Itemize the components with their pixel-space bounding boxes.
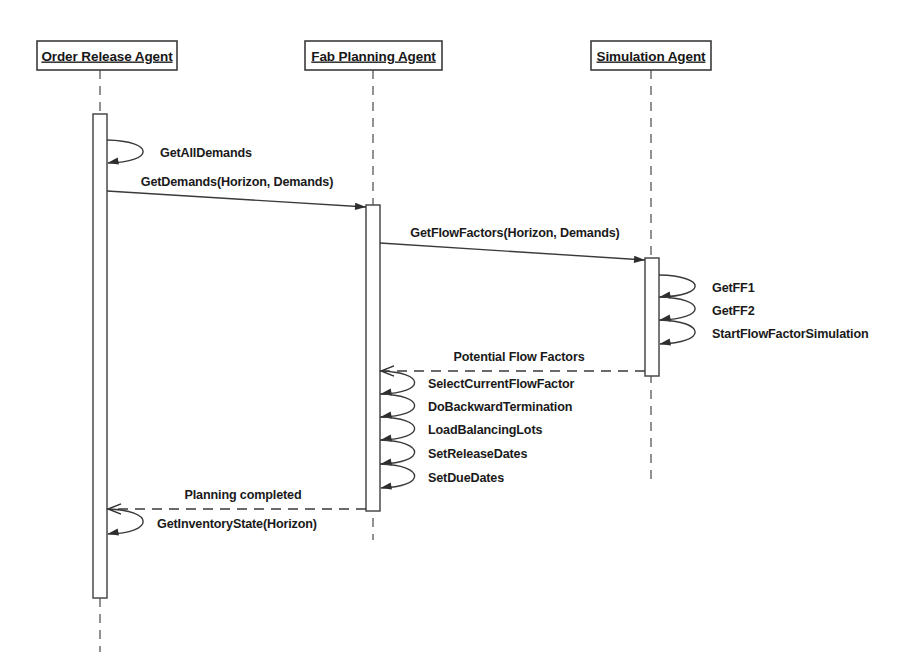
message-msg-get-flow-factors[interactable]: GetFlowFactors(Horizon, Demands) — [380, 226, 645, 263]
activation-bar-order-release-agent[interactable] — [93, 114, 107, 598]
message-label: GetDemands(Horizon, Demands) — [141, 175, 333, 189]
lifeline-fab-planning-agent[interactable]: Fab Planning Agent — [305, 41, 442, 540]
self-message-arc — [659, 275, 695, 297]
message-msg-get-ff1[interactable]: GetFF1 — [659, 275, 755, 299]
message-label: Potential Flow Factors — [453, 350, 584, 364]
self-message-arc — [380, 417, 415, 440]
message-label: GetFlowFactors(Horizon, Demands) — [410, 226, 619, 240]
self-message-arc — [659, 297, 695, 320]
message-label: GetFF1 — [712, 281, 755, 295]
message-msg-get-ff2[interactable]: GetFF2 — [659, 297, 755, 322]
sequence-diagram-svg: Order Release AgentFab Planning AgentSim… — [0, 0, 910, 666]
message-label: GetFF2 — [712, 304, 755, 318]
self-message-arc — [380, 440, 415, 464]
self-message-arc — [380, 371, 415, 394]
message-label: SelectCurrentFlowFactor — [428, 377, 575, 391]
message-msg-load-balancing-lots[interactable]: LoadBalancingLots — [380, 417, 542, 442]
activation-bar-fab-planning-agent[interactable] — [366, 205, 380, 511]
message-msg-set-release-dates[interactable]: SetReleaseDates — [380, 440, 527, 466]
self-message-arc — [380, 394, 415, 417]
lifeline-label-order-release-agent: Order Release Agent — [41, 49, 173, 64]
message-label: GetAllDemands — [160, 146, 252, 160]
message-msg-get-demands[interactable]: GetDemands(Horizon, Demands) — [107, 175, 366, 210]
self-message-arc — [380, 464, 415, 488]
self-message-arc — [107, 509, 143, 534]
sequence-diagram-canvas: Order Release AgentFab Planning AgentSim… — [0, 0, 910, 666]
message-label: Planning completed — [185, 488, 302, 502]
lifeline-label-fab-planning-agent: Fab Planning Agent — [311, 49, 436, 64]
message-label: SetReleaseDates — [428, 447, 527, 461]
lifeline-order-release-agent[interactable]: Order Release Agent — [37, 41, 177, 652]
message-label: LoadBalancingLots — [428, 423, 542, 437]
message-msg-potential-flow-factors[interactable]: Potential Flow Factors — [381, 350, 645, 376]
message-msg-get-all-demands[interactable]: GetAllDemands — [107, 140, 252, 165]
message-label: StartFlowFactorSimulation — [712, 327, 868, 341]
message-line — [107, 191, 366, 207]
activation-bar-simulation-agent[interactable] — [645, 258, 659, 376]
message-label: GetInventoryState(Horizon) — [157, 517, 317, 531]
self-message-arc — [659, 320, 695, 344]
message-line — [380, 243, 645, 260]
message-msg-start-flow-factor-simulation[interactable]: StartFlowFactorSimulation — [659, 320, 868, 346]
message-label: SetDueDates — [428, 471, 504, 485]
lifelines-layer: Order Release AgentFab Planning AgentSim… — [37, 41, 711, 652]
message-msg-select-current-flow-factor[interactable]: SelectCurrentFlowFactor — [380, 371, 575, 396]
self-message-arc — [107, 140, 143, 163]
message-label: DoBackwardTermination — [428, 400, 572, 414]
message-msg-get-inventory-state[interactable]: GetInventoryState(Horizon) — [107, 509, 317, 536]
message-msg-planning-completed[interactable]: Planning completed — [108, 488, 366, 514]
message-msg-do-backward-termination[interactable]: DoBackwardTermination — [380, 394, 572, 419]
lifeline-simulation-agent[interactable]: Simulation Agent — [591, 41, 711, 484]
lifeline-label-simulation-agent: Simulation Agent — [597, 49, 707, 64]
messages-layer: GetAllDemandsGetDemands(Horizon, Demands… — [107, 140, 868, 536]
message-msg-set-due-dates[interactable]: SetDueDates — [380, 464, 504, 490]
